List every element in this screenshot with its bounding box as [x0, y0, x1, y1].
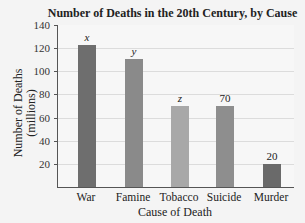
y-tick-label: 120	[20, 42, 50, 54]
bar-murder	[263, 164, 281, 187]
y-tick	[54, 48, 58, 49]
y-tick-label: 140	[20, 19, 50, 31]
y-tick	[54, 118, 58, 119]
data-label-famine: y	[114, 45, 154, 57]
y-tick	[54, 71, 58, 72]
data-label-suicide: 70	[205, 92, 245, 104]
bar-suicide	[216, 106, 234, 187]
y-tick	[54, 94, 58, 95]
plot-area: 20406080100120140xyz7020	[57, 25, 294, 188]
bar-famine	[125, 59, 143, 187]
bar-tobacco	[171, 106, 189, 187]
x-axis-title: Cause of Death	[57, 205, 293, 220]
y-tick-label: 60	[20, 112, 50, 124]
data-label-war: x	[67, 31, 107, 43]
data-label-tobacco: z	[160, 92, 200, 104]
data-label-murder: 20	[252, 150, 292, 162]
y-tick-label: 20	[20, 158, 50, 170]
bar-war	[78, 45, 96, 187]
y-tick	[54, 164, 58, 165]
y-tick-label: 40	[20, 135, 50, 147]
y-tick-label: 80	[20, 88, 50, 100]
y-tick	[54, 25, 58, 26]
y-tick-label: 100	[20, 65, 50, 77]
y-tick	[54, 141, 58, 142]
x-tick-label-murder: Murder	[241, 191, 301, 203]
